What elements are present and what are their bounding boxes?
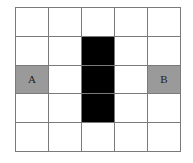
grid-cell-r2-c3	[114, 65, 147, 94]
grid-cell-r3-c3	[114, 93, 147, 122]
grid-cell-r0-c1	[48, 7, 81, 36]
grid-cell-r3-c4	[147, 93, 180, 122]
grid-cell-r0-c0	[15, 7, 48, 36]
grid-cell-r1-c3	[114, 36, 147, 65]
grid-cell-r0-c2	[81, 7, 114, 36]
grid-diagram: A B	[15, 7, 181, 152]
grid-cell-r3-c0	[15, 93, 48, 122]
grid-cell-r4-c2	[81, 122, 114, 151]
grid-cell-r1-c4	[147, 36, 180, 65]
grid-cell-r1-c0	[15, 36, 48, 65]
grid-cell-r4-c0	[15, 122, 48, 151]
obstacle-cell-r1-c2	[81, 36, 114, 65]
goal-cell-b: B	[147, 65, 180, 94]
grid-cell-r2-c1	[48, 65, 81, 94]
grid-cell-r0-c3	[114, 7, 147, 36]
grid-cell-r4-c3	[114, 122, 147, 151]
start-cell-a: A	[15, 65, 48, 94]
obstacle-cell-r3-c2	[81, 93, 114, 122]
grid-cell-r1-c1	[48, 36, 81, 65]
grid-cell-r3-c1	[48, 93, 81, 122]
grid-cell-r4-c4	[147, 122, 180, 151]
grid-cell-r0-c4	[147, 7, 180, 36]
obstacle-cell-r2-c2	[81, 65, 114, 94]
grid-cell-r4-c1	[48, 122, 81, 151]
